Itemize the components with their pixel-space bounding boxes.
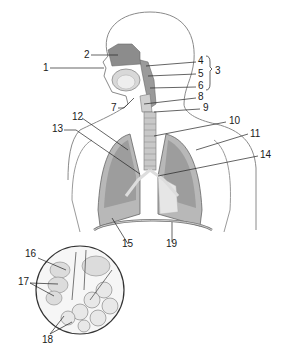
label-6: 6 — [198, 81, 204, 91]
label-11: 11 — [250, 129, 260, 139]
label-8: 8 — [198, 92, 204, 102]
label-14: 14 — [260, 150, 271, 160]
label-4: 4 — [198, 56, 204, 66]
respiratory-system-illustration — [0, 0, 284, 363]
label-12: 12 — [72, 112, 83, 122]
label-3: 3 — [215, 66, 221, 76]
label-7: 7 — [111, 103, 117, 113]
trachea — [144, 112, 156, 170]
label-15: 15 — [122, 239, 133, 249]
label-19: 19 — [166, 239, 177, 249]
label-17: 17 — [18, 277, 29, 287]
label-9: 9 — [203, 103, 209, 113]
label-2: 2 — [84, 50, 90, 60]
label-10: 10 — [229, 116, 240, 126]
label-1: 1 — [43, 63, 49, 73]
label-13: 13 — [52, 124, 63, 134]
label-5: 5 — [198, 69, 204, 79]
label-16: 16 — [25, 249, 36, 259]
label-18: 18 — [42, 335, 53, 345]
